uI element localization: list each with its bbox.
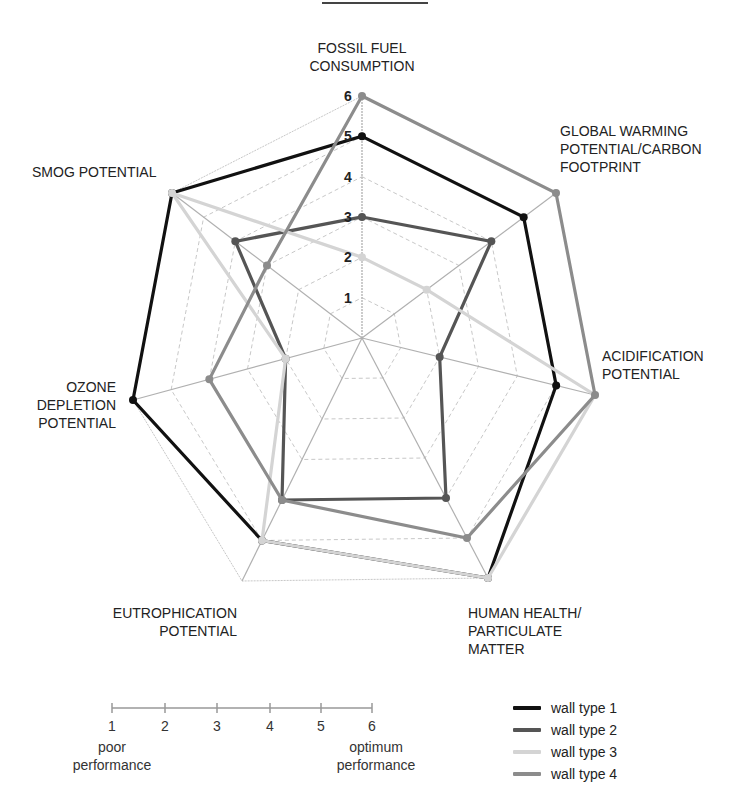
axis-label-smog: SMOG POTENTIAL [32,163,156,181]
legend-item-wall-type-1: wall type 1 [513,697,617,719]
scale-high-text: optimumperformance [328,738,424,774]
axis-label-ozone-depletion: OZONEDEPLETIONPOTENTIAL [20,378,116,432]
scale-number: 6 [368,718,376,734]
axis-label-global-warming: GLOBAL WARMINGPOTENTIAL/CARBONFOOTPRINT [560,122,702,176]
tick-label: 1 [344,290,352,306]
legend: wall type 1 wall type 2 wall type 3 wall… [513,697,617,785]
legend-swatch [513,750,541,754]
legend-swatch [513,728,541,732]
legend-item-wall-type-4: wall type 4 [513,763,617,785]
series-wall-type-3 [168,189,599,582]
scale-number: 4 [266,718,274,734]
radar-chart: 123456 [0,0,752,690]
legend-item-wall-type-3: wall type 3 [513,741,617,763]
scale-low-text: poorperformance [70,738,154,774]
legend-swatch [513,706,541,710]
axis-label-fossil-fuel: FOSSIL FUELCONSUMPTION [292,39,432,75]
legend-item-wall-type-2: wall type 2 [513,719,617,741]
tick-label: 6 [344,88,352,104]
axis-label-eutrophication: EUTROPHICATIONPOTENTIAL [112,604,237,640]
axis-label-acidification: ACIDIFICATIONPOTENTIAL [602,347,704,383]
scale-bar [110,700,380,714]
tick-label: 3 [344,209,352,225]
scale-number: 1 [108,718,116,734]
axis-label-human-health: HUMAN HEALTH/PARTICULATEMATTER [468,604,581,658]
legend-swatch [513,772,541,776]
radar-spokes [133,96,595,581]
tick-label: 4 [344,169,352,185]
tick-label: 5 [344,128,352,144]
scale-number: 2 [161,718,169,734]
scale-number: 5 [317,718,325,734]
series-wall-type-4 [205,92,599,542]
tick-label: 2 [344,249,352,265]
scale-number: 3 [213,718,221,734]
